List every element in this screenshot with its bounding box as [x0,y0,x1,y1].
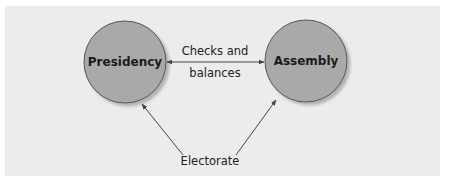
node-assembly: Assembly [265,20,347,102]
node-presidency: Presidency [84,21,166,103]
diagram-canvas: Presidency Assembly Checks and balances … [0,0,450,184]
electorate-to-assembly-arrow [236,100,276,155]
checks-balances-label-line2: balances [189,66,240,80]
electorate-to-presidency-arrow [142,104,183,155]
presidency-label: Presidency [88,55,162,69]
assembly-label: Assembly [274,54,339,68]
checks-balances-label-line1: Checks and [182,44,249,58]
electorate-label: Electorate [181,154,240,168]
